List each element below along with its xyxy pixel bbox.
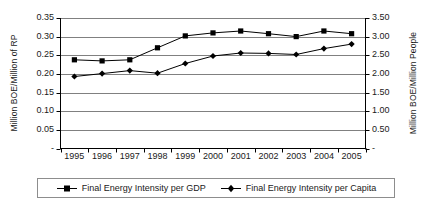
legend-marker-square-icon bbox=[56, 184, 78, 193]
legend-item-capita: Final Energy Intensity per Capita bbox=[220, 183, 377, 193]
data-point-marker bbox=[294, 34, 299, 39]
data-point-marker bbox=[349, 41, 355, 47]
x-axis-ticks bbox=[62, 149, 367, 153]
y-axis-left-ticks bbox=[57, 19, 61, 150]
data-point-marker bbox=[238, 28, 243, 33]
legend-item-gdp: Final Energy Intensity per GDP bbox=[56, 183, 206, 193]
legend-label-capita: Final Energy Intensity per Capita bbox=[246, 183, 377, 193]
legend-marker-diamond-icon bbox=[220, 184, 242, 193]
data-point-marker bbox=[100, 58, 105, 63]
legend-label-gdp: Final Energy Intensity per GDP bbox=[82, 183, 206, 193]
data-point-marker bbox=[293, 51, 299, 57]
data-point-marker bbox=[266, 31, 271, 36]
data-point-marker bbox=[183, 33, 188, 38]
data-point-marker bbox=[321, 28, 326, 33]
data-point-marker bbox=[127, 57, 132, 62]
data-point-marker bbox=[155, 45, 160, 50]
chart-figure: Million BOE/Million of RP Million BOE/Mi… bbox=[0, 0, 432, 208]
data-point-marker bbox=[349, 31, 354, 36]
data-point-marker bbox=[99, 71, 105, 77]
plot-area bbox=[0, 0, 432, 208]
chart-legend: Final Energy Intensity per GDP Final Ene… bbox=[37, 178, 395, 198]
data-point-marker bbox=[182, 60, 188, 66]
data-point-marker bbox=[321, 46, 327, 52]
y-axis-right-ticks bbox=[366, 19, 370, 150]
data-point-marker bbox=[72, 57, 77, 62]
data-point-marker bbox=[210, 30, 215, 35]
data-point-marker bbox=[210, 53, 216, 59]
data-series-group bbox=[71, 28, 354, 79]
data-point-marker bbox=[154, 70, 160, 76]
data-point-marker bbox=[127, 68, 133, 74]
